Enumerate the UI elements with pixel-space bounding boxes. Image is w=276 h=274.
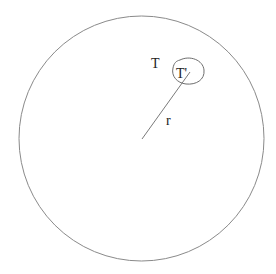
diagram-svg: T T' r xyxy=(0,0,276,274)
outer-circle xyxy=(19,16,264,261)
label-outer-region: T xyxy=(151,56,160,71)
diagram-canvas: T T' r xyxy=(0,0,276,274)
radius-line xyxy=(142,72,190,139)
label-inner-region: T' xyxy=(176,66,187,81)
label-radius: r xyxy=(166,113,171,128)
